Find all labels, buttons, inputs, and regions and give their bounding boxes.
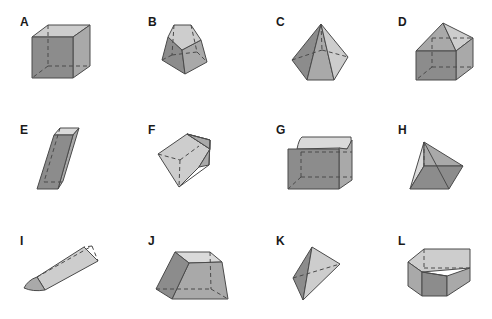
shape-g-box-curved-top: G: [276, 123, 352, 189]
box-curved-top: [297, 137, 351, 149]
shape-d-cube-with-roof: D: [398, 15, 473, 80]
shape-j-rectangular-frustum: J: [148, 234, 228, 299]
shape-c-hexagonal-pyramid: C: [276, 15, 348, 80]
shape-f-pentagonal-solid: F: [148, 123, 210, 187]
label-i: I: [20, 234, 23, 248]
label-f: F: [148, 123, 155, 137]
label-a: A: [20, 15, 29, 29]
shape-a-cube: A: [20, 15, 90, 78]
prism-side-face: [37, 247, 98, 290]
label-h: H: [398, 123, 407, 137]
geometric-solids-figure: A B C D: [0, 0, 492, 319]
shape-k-tetrahedron: K: [276, 234, 340, 300]
label-e: E: [20, 123, 28, 137]
prism-right-face: [447, 268, 470, 296]
label-g: G: [276, 123, 285, 137]
box-front-face: [416, 51, 456, 80]
label-b: B: [148, 15, 157, 29]
box-front-face: [288, 149, 339, 189]
shape-i-prism-curved-end: I: [20, 234, 98, 291]
shape-b-pentagonal-frustum: B: [148, 15, 207, 74]
label-l: L: [398, 234, 405, 248]
shape-l-pentagonal-prism: L: [398, 234, 470, 296]
cube-front-face: [32, 37, 73, 78]
shape-e-oblique-prism: E: [20, 123, 79, 189]
label-d: D: [398, 15, 407, 29]
label-j: J: [148, 234, 155, 248]
shape-h-square-pyramid: H: [398, 123, 463, 189]
label-c: C: [276, 15, 285, 29]
label-k: K: [276, 234, 285, 248]
